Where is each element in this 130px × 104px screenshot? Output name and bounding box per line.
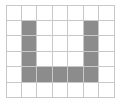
grid-cell xyxy=(6,83,22,99)
shaded-cell xyxy=(84,67,100,83)
grid-cell xyxy=(84,83,100,99)
grid-cell xyxy=(53,21,69,37)
grid-cell xyxy=(99,36,115,52)
grid-cell xyxy=(22,83,38,99)
grid-cell xyxy=(99,5,115,21)
grid-cell xyxy=(6,21,22,37)
grid-cell xyxy=(68,21,84,37)
shaded-cell xyxy=(22,36,38,52)
shaded-cell xyxy=(68,67,84,83)
grid-cell xyxy=(84,5,100,21)
grid-cell xyxy=(68,83,84,99)
shaded-cell xyxy=(84,36,100,52)
shape-grid xyxy=(6,5,115,98)
grid-cell xyxy=(22,5,38,21)
grid-cell xyxy=(6,5,22,21)
grid-cell xyxy=(99,67,115,83)
shaded-cell xyxy=(84,21,100,37)
grid-cell xyxy=(37,5,53,21)
grid-cell xyxy=(68,5,84,21)
grid-cell xyxy=(37,52,53,68)
grid-cell xyxy=(53,5,69,21)
grid-cell xyxy=(68,36,84,52)
grid-cell xyxy=(68,52,84,68)
grid-cell xyxy=(6,36,22,52)
grid-cell xyxy=(6,67,22,83)
grid-cell xyxy=(99,83,115,99)
grid-cell xyxy=(37,21,53,37)
shaded-cell xyxy=(53,67,69,83)
shaded-cell xyxy=(84,52,100,68)
grid-cell xyxy=(99,21,115,37)
grid-cell xyxy=(37,83,53,99)
grid-cell xyxy=(99,52,115,68)
grid-cell xyxy=(53,83,69,99)
shaded-cell xyxy=(22,52,38,68)
grid-cell xyxy=(53,52,69,68)
shaded-cell xyxy=(22,21,38,37)
grid-cell xyxy=(53,36,69,52)
shaded-cell xyxy=(37,67,53,83)
grid-cell xyxy=(6,52,22,68)
shaded-cell xyxy=(22,67,38,83)
grid-cell xyxy=(37,36,53,52)
